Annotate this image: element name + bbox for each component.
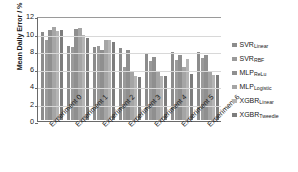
bar [100,50,103,120]
bar [56,31,59,120]
x-tick-label: Experiment 1 [74,123,80,129]
legend-swatch-icon [232,99,237,104]
legend-item-label: MLPLogistic [240,83,272,91]
y-tickmark [35,71,38,72]
legend-item-label: SVRLinear [240,41,269,49]
y-tick-label-10: 10 [20,31,34,38]
bar [108,40,111,121]
gridline [38,53,221,54]
x-tick-label: Experiment 2 [101,123,107,129]
x-tick-label: Experiment 0 [48,123,54,129]
gridline [38,71,221,72]
legend-item[interactable]: MLPLogistic [232,80,296,94]
legend-item[interactable]: SVRLinear [232,38,296,52]
y-tickmark [35,106,38,107]
gridline [38,36,221,37]
x-tick-label: Experiment 4 [153,123,159,129]
y-tick-label-8: 8 [20,48,34,55]
bar [126,50,129,120]
y-tick-label-4: 4 [20,83,34,90]
y-axis-tick-labels: 024681012 [20,14,34,122]
legend-item[interactable]: SVRRBF [232,52,296,66]
y-tick-label-0: 0 [20,118,34,125]
x-tick-label: Experiment 6 [206,123,212,129]
bar [45,40,48,121]
y-tick-label-6: 6 [20,66,34,73]
legend-item[interactable]: XGBRTweedie [232,108,296,122]
legend-item-label: XGBRTweedie [240,111,279,119]
legend-swatch-icon [232,113,237,118]
y-tickmark [35,18,38,19]
gridline [38,88,221,89]
legend-swatch-icon [232,71,237,76]
y-tickmark [35,36,38,37]
legend-item[interactable]: MLPReLu [232,66,296,80]
legend-item-label: XGBRLinear [240,97,274,105]
legend-item-label: SVRRBF [240,55,265,63]
y-tick-label-2: 2 [20,101,34,108]
legend-swatch-icon [232,85,237,90]
bar [82,35,85,120]
legend-swatch-icon [232,57,237,62]
x-tick-label: Experiment 3 [127,123,133,129]
chart-legend: SVRLinearSVRRBFMLPReLuMLPLogisticXGBRLin… [232,38,296,122]
y-tickmark [35,53,38,54]
legend-swatch-icon [232,43,237,48]
x-axis-tick-labels: Experiment 0Experiment 1Experiment 2Expe… [37,123,221,171]
legend-item-label: MLPReLu [240,69,267,77]
legend-item[interactable]: XGBRLinear [232,94,296,108]
bar-chart: Mean Daily Error / % 024681012 Experimen… [0,0,298,172]
y-tick-label-12: 12 [20,13,34,20]
x-tick-label: Experiment 5 [180,123,186,129]
y-tickmark [35,88,38,89]
bar [41,32,44,120]
